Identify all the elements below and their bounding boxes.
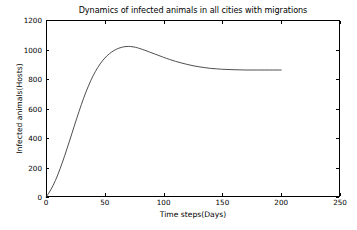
y-tick-mark-right [336, 79, 339, 80]
y-tick-mark [46, 109, 49, 110]
x-tick-label: 100 [157, 198, 171, 207]
x-tick-mark-top [164, 21, 165, 24]
x-tick-label: 50 [100, 198, 109, 207]
plot-area [46, 20, 340, 197]
x-tick-mark-top [222, 21, 223, 24]
x-tick-label: 150 [216, 198, 230, 207]
x-tick-mark [164, 193, 165, 196]
x-tick-mark-top [105, 21, 106, 24]
y-tick-mark-right [336, 109, 339, 110]
x-tick-mark-top [46, 21, 47, 24]
chart-title: Dynamics of infected animals in all citi… [46, 5, 340, 16]
y-tick-mark [46, 168, 49, 169]
y-tick-mark [46, 79, 49, 80]
x-tick-mark-top [340, 21, 341, 24]
x-tick-mark [222, 193, 223, 196]
x-tick-mark [105, 193, 106, 196]
x-tick-label: 200 [274, 198, 288, 207]
x-tick-mark [46, 193, 47, 196]
y-tick-mark-right [336, 138, 339, 139]
y-tick-mark-right [336, 20, 339, 21]
x-tick-mark [281, 193, 282, 196]
y-tick-mark [46, 138, 49, 139]
x-tick-mark-top [281, 21, 282, 24]
x-tick-mark [340, 193, 341, 196]
x-tick-label: 250 [333, 198, 347, 207]
y-axis-label: Infected animals(Hosts) [14, 20, 26, 197]
y-tick-mark [46, 50, 49, 51]
y-tick-mark-right [336, 50, 339, 51]
x-tick-label: 0 [44, 198, 49, 207]
y-tick-mark-right [336, 168, 339, 169]
chart-figure: Dynamics of infected animals in all citi… [0, 0, 357, 230]
x-axis-label: Time steps(Days) [46, 210, 340, 219]
